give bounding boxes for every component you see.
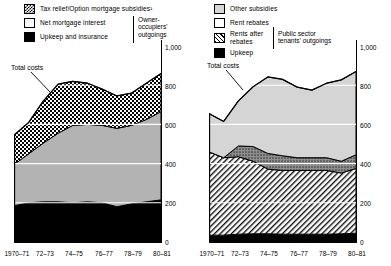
- legend-swatch-net-mortgage-interest-icon: [24, 18, 35, 28]
- y-axis-line: [161, 40, 162, 243]
- area-band: [14, 200, 161, 242]
- y-tick-800: 800: [360, 83, 371, 90]
- y-axis-line: [356, 40, 357, 243]
- callout-leader-line: [225, 70, 249, 92]
- legend-swatch-rent-rebates-icon: [214, 18, 225, 28]
- legend-label: Tax relief/Option mortgage subsidies¹: [40, 5, 153, 12]
- legend-swatch-rents-after-rebates-icon: [214, 33, 225, 43]
- legend-group-label-public-sector: Public sector tenants' outgoings: [278, 30, 331, 45]
- y-tick-200: 200: [360, 200, 371, 207]
- y-tick-0: 0: [360, 239, 364, 246]
- y-tick-1000: 1,000: [360, 44, 377, 51]
- legend-label: Upkeep and insurance: [40, 33, 108, 40]
- legend-divider: [133, 16, 134, 43]
- legend-label: Rents after rebates: [230, 30, 263, 44]
- y-tick-600: 600: [165, 122, 176, 129]
- y-tick-400: 400: [165, 161, 176, 168]
- callout-leader-line: [30, 72, 54, 94]
- legend-label: Rent rebates: [230, 19, 269, 26]
- legend-item: Other subsidies: [214, 2, 277, 15]
- legend-item: Rents after rebates: [214, 30, 277, 45]
- y-tick-800: 800: [165, 83, 176, 90]
- y-tick-400: 400: [360, 161, 371, 168]
- figure-root: Tax relief/Option mortgage subsidies¹ Ne…: [0, 0, 391, 266]
- x-axis-line: [209, 242, 357, 243]
- y-tick-600: 600: [360, 122, 371, 129]
- legend-item: Tax relief/Option mortgage subsidies¹: [24, 2, 153, 15]
- chart-panel-public-sector-tenants: Other subsidies Rent rebates Rents after…: [195, 0, 390, 266]
- legend-swatch-upkeep-insurance-icon: [24, 32, 35, 42]
- y-tick-200: 200: [165, 200, 176, 207]
- y-tick-1000: 1,000: [165, 44, 182, 51]
- legend-group-label-owner-occupiers: Owner- occupiers' outgoings: [138, 16, 167, 38]
- legend-swatch-tax-relief-icon: [24, 4, 35, 14]
- legend-item: Rent rebates: [214, 16, 277, 29]
- legend-label: Net mortgage interest: [40, 19, 106, 26]
- x-tick-80-81: 80–81: [337, 250, 377, 257]
- x-axis-line: [14, 242, 162, 243]
- legend-swatch-other-subsidies-icon: [214, 4, 225, 14]
- x-tick-80-81: 80–81: [142, 250, 182, 257]
- chart-panel-owner-occupiers: Tax relief/Option mortgage subsidies¹ Ne…: [0, 0, 195, 266]
- callout-total-costs: Total costs: [11, 64, 43, 72]
- callout-total-costs: Total costs: [207, 62, 239, 70]
- y-tick-0: 0: [165, 239, 169, 246]
- legend-label: Other subsidies: [230, 5, 277, 12]
